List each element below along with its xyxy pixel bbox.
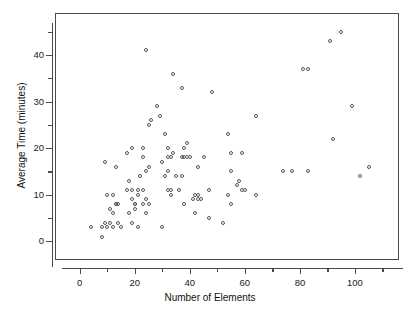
data-point bbox=[144, 48, 148, 52]
data-point bbox=[328, 39, 332, 43]
data-point bbox=[177, 188, 181, 192]
y-tick bbox=[46, 195, 52, 196]
data-point bbox=[199, 197, 203, 201]
data-point bbox=[188, 155, 192, 159]
data-point bbox=[191, 197, 195, 201]
y-tick bbox=[46, 102, 52, 103]
data-point bbox=[221, 221, 225, 225]
data-point bbox=[193, 211, 197, 215]
data-point bbox=[171, 72, 175, 76]
data-point bbox=[182, 146, 186, 150]
y-axis-title: Average Time (minutes) bbox=[16, 46, 27, 226]
data-point bbox=[229, 169, 233, 173]
data-point bbox=[180, 174, 184, 178]
data-point bbox=[163, 132, 167, 136]
data-point bbox=[100, 235, 104, 239]
data-point bbox=[169, 188, 173, 192]
y-tick-minor bbox=[48, 32, 52, 33]
data-point bbox=[141, 188, 145, 192]
x-tick-label: 60 bbox=[225, 277, 265, 288]
y-tick-minor bbox=[48, 218, 52, 219]
data-point bbox=[147, 123, 151, 127]
y-tick-minor bbox=[48, 78, 52, 79]
data-point bbox=[229, 151, 233, 155]
y-tick-minor bbox=[48, 125, 52, 126]
data-point bbox=[127, 211, 131, 215]
data-point bbox=[163, 174, 167, 178]
data-point bbox=[226, 193, 230, 197]
data-point bbox=[180, 86, 184, 90]
data-point bbox=[111, 211, 115, 215]
data-point bbox=[254, 114, 258, 118]
x-tick-minor bbox=[217, 268, 218, 272]
data-point bbox=[306, 67, 310, 71]
data-point bbox=[141, 202, 145, 206]
y-tick-minor bbox=[48, 171, 52, 172]
data-point bbox=[160, 225, 164, 229]
data-point bbox=[116, 221, 120, 225]
data-point bbox=[136, 225, 140, 229]
data-point bbox=[133, 202, 137, 206]
data-point bbox=[144, 169, 148, 173]
data-point bbox=[105, 225, 109, 229]
data-point bbox=[301, 67, 305, 71]
data-point bbox=[103, 160, 107, 164]
data-point bbox=[210, 90, 214, 94]
data-point bbox=[125, 188, 129, 192]
scatter-chart: 010203040 020406080100 Number of Element… bbox=[0, 0, 420, 315]
data-point bbox=[119, 225, 123, 229]
x-tick-minor bbox=[107, 268, 108, 272]
y-tick bbox=[46, 241, 52, 242]
data-point bbox=[130, 197, 134, 201]
data-point bbox=[141, 155, 145, 159]
x-tick-label: 0 bbox=[60, 277, 100, 288]
data-point bbox=[367, 165, 371, 169]
x-tick-minor bbox=[162, 268, 163, 272]
x-tick-label: 100 bbox=[335, 277, 375, 288]
data-point bbox=[105, 193, 109, 197]
data-point bbox=[138, 174, 142, 178]
data-point bbox=[130, 146, 134, 150]
data-point bbox=[125, 151, 129, 155]
data-point bbox=[202, 155, 206, 159]
data-point bbox=[114, 165, 118, 169]
data-point bbox=[207, 188, 211, 192]
data-point bbox=[133, 207, 137, 211]
data-point bbox=[130, 221, 134, 225]
data-point bbox=[89, 225, 93, 229]
data-point bbox=[281, 169, 285, 173]
data-point bbox=[196, 193, 200, 197]
data-point bbox=[169, 155, 173, 159]
data-point bbox=[100, 225, 104, 229]
x-axis-line bbox=[62, 268, 403, 269]
data-point bbox=[169, 193, 173, 197]
x-axis-title: Number of Elements bbox=[0, 292, 420, 303]
data-point bbox=[108, 207, 112, 211]
data-point bbox=[240, 151, 244, 155]
data-point bbox=[149, 118, 153, 122]
data-point bbox=[254, 193, 258, 197]
x-tick bbox=[190, 268, 191, 274]
x-tick bbox=[300, 268, 301, 274]
data-point bbox=[158, 114, 162, 118]
data-point bbox=[147, 202, 151, 206]
data-point bbox=[237, 179, 241, 183]
data-point bbox=[331, 137, 335, 141]
x-tick bbox=[80, 268, 81, 274]
data-point bbox=[111, 193, 115, 197]
data-point bbox=[226, 132, 230, 136]
x-tick-label: 40 bbox=[170, 277, 210, 288]
data-point bbox=[144, 211, 148, 215]
y-tick bbox=[46, 55, 52, 56]
x-tick bbox=[245, 268, 246, 274]
x-tick bbox=[135, 268, 136, 274]
data-point bbox=[108, 221, 112, 225]
data-point bbox=[116, 202, 120, 206]
x-tick-label: 80 bbox=[280, 277, 320, 288]
x-tick-minor bbox=[382, 268, 383, 272]
plot-data-area bbox=[55, 13, 399, 260]
data-point bbox=[350, 104, 354, 108]
data-point bbox=[130, 188, 134, 192]
data-point bbox=[196, 165, 200, 169]
data-point bbox=[229, 202, 233, 206]
